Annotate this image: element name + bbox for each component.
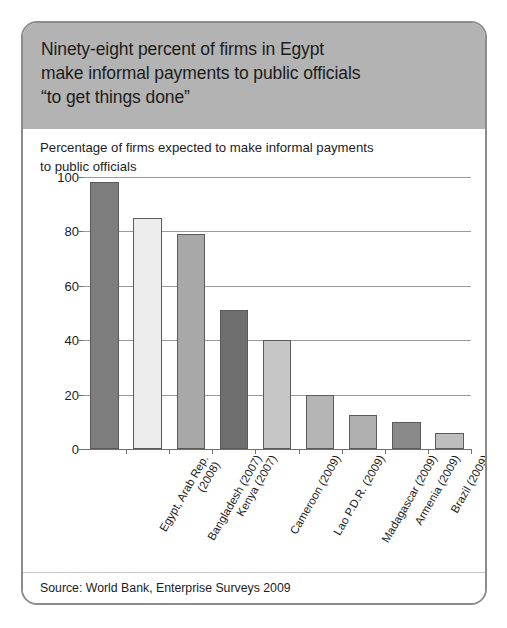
page-title: Ninety-eight percent of firms in Egypt m…	[41, 37, 473, 109]
plot-area	[83, 177, 471, 450]
bar	[220, 310, 248, 449]
y-tick-label: 100	[57, 170, 79, 185]
bar	[349, 415, 377, 449]
y-tick-label: 80	[65, 224, 79, 239]
y-tick-label: 20	[65, 387, 79, 402]
bar	[90, 182, 118, 449]
x-tick-label: Lao P.D.R. (2009)	[332, 453, 388, 538]
bar-chart: 020406080100 Egypt, Arab Rep.(2008)Bangl…	[23, 177, 485, 497]
y-tick-mark	[78, 449, 83, 450]
y-tick-label: 40	[65, 333, 79, 348]
title-line-1: Ninety-eight percent of firms in Egypt	[41, 37, 473, 61]
x-axis: Egypt, Arab Rep.(2008)Bangladesh (2007)K…	[83, 453, 471, 561]
bar	[435, 433, 463, 449]
bar	[392, 422, 420, 449]
y-axis: 020406080100	[33, 177, 79, 449]
source-note: Source: World Bank, Enterprise Surveys 2…	[40, 581, 291, 595]
chart-subtitle-line-1: Percentage of firms expected to make inf…	[40, 138, 475, 157]
x-tick-mark	[471, 449, 472, 454]
chart-panel: Percentage of firms expected to make inf…	[23, 129, 485, 603]
bars-group	[83, 177, 471, 449]
title-line-3: “to get things done”	[41, 85, 473, 109]
bar	[263, 340, 291, 449]
chart-subtitle-line-2: to public officials	[40, 157, 475, 176]
figure-card: Ninety-eight percent of firms in Egypt m…	[21, 21, 487, 605]
source-divider	[23, 572, 485, 573]
bar	[133, 218, 161, 449]
header-banner: Ninety-eight percent of firms in Egypt m…	[23, 23, 485, 129]
y-tick-label: 60	[65, 278, 79, 293]
title-line-2: make informal payments to public officia…	[41, 61, 473, 85]
chart-subtitle: Percentage of firms expected to make inf…	[40, 138, 475, 176]
bar	[306, 395, 334, 449]
bar	[177, 234, 205, 449]
